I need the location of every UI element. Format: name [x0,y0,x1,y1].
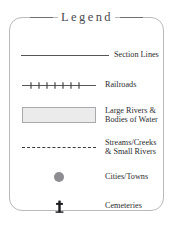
filled-rectangle-icon [22,107,96,123]
legend-panel: Section Lines Railroads [9,17,164,211]
legend-item-section-lines: Section Lines [10,47,163,63]
legend-item-label: Streams/Creeks & Small Rivers [105,138,163,157]
section-lines-symbol [10,55,114,56]
cemeteries-symbol [10,200,102,213]
legend-item-label: Cemeteries [105,201,163,210]
title-rule-right [120,17,143,18]
streams-symbol [10,147,102,148]
hatched-line-icon [22,81,96,90]
cities-towns-symbol [10,172,102,182]
legend-items-list: Section Lines Railroads [10,18,163,210]
legend-title: Legend [58,11,115,24]
legend-title-bar: Legend [9,9,164,26]
legend-item-large-rivers: Large Rivers & Bodies of Water [10,104,163,126]
filled-circle-icon [54,172,64,182]
title-rule-left [30,17,53,18]
legend-item-label: Railroads [105,80,163,89]
legend-item-cemeteries: Cemeteries [10,197,163,215]
legend-item-streams: Streams/Creeks & Small Rivers [10,137,163,157]
legend-item-label: Cities/Towns [105,172,163,181]
legend-item-label: Section Lines [114,50,163,59]
legend-item-railroads: Railroads [10,77,163,93]
railroads-symbol [10,81,102,90]
cross-icon [55,200,64,213]
solid-line-icon [21,55,109,56]
legend-item-label: Large Rivers & Bodies of Water [105,106,163,125]
dashed-line-icon [22,147,96,148]
legend-item-cities-towns: Cities/Towns [10,168,163,186]
large-rivers-symbol [10,107,102,123]
